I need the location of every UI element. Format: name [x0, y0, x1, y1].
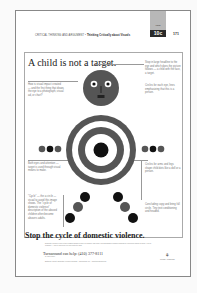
turnaround-logo: ⚘ TURN AROUND	[160, 252, 175, 260]
target-icon	[66, 115, 136, 185]
right-leg-dots	[113, 192, 138, 223]
right-arm-dots	[142, 146, 165, 153]
left-arm-dots	[39, 146, 62, 153]
target-child-illustration	[0, 0, 197, 293]
fine-print: Domestic violence is one of the leading …	[45, 243, 155, 247]
ad-tagline: Stop the cycle of domestic violence.	[25, 231, 145, 240]
left-leg-dots	[65, 192, 90, 223]
head-icon	[83, 70, 119, 106]
logo-text: TURN AROUND	[160, 258, 175, 260]
ad-footer: Baltimore County Domestic Violence Progr…	[45, 261, 155, 263]
helpline-sub: 24-hour hotline	[45, 256, 155, 258]
